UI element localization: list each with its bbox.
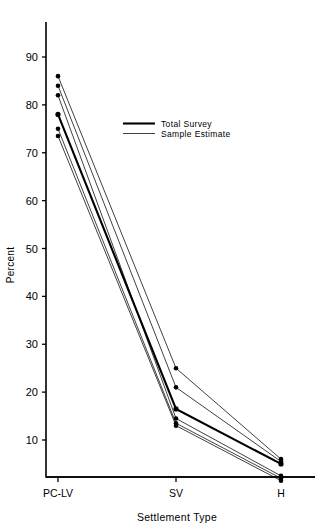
legend-label-total-survey: Total Survey: [161, 119, 212, 129]
data-point: [56, 93, 61, 98]
series-line: [58, 114, 281, 463]
y-tick-label: 90: [26, 51, 38, 63]
y-axis-ticks: 102030405060708090: [26, 51, 46, 446]
chart-canvas: 102030405060708090 PC-LVSVH Total Survey…: [0, 0, 323, 531]
y-axis-title: Percent: [5, 247, 16, 284]
x-axis-title: Settlement Type: [137, 511, 217, 523]
x-tick-label: SV: [169, 487, 183, 499]
data-point: [56, 127, 61, 132]
y-tick-label: 30: [26, 338, 38, 350]
x-tick-label: H: [277, 487, 285, 499]
line-chart: 102030405060708090 PC-LVSVH Total Survey…: [0, 0, 323, 531]
data-point: [56, 83, 61, 88]
data-point: [278, 461, 283, 466]
data-point: [174, 385, 179, 390]
data-point: [56, 134, 61, 139]
data-point: [55, 112, 60, 117]
y-tick-label: 40: [26, 290, 38, 302]
data-point: [174, 366, 179, 371]
data-point: [279, 478, 284, 483]
y-tick-label: 70: [26, 147, 38, 159]
data-point: [174, 416, 179, 421]
data-point: [56, 74, 61, 79]
series-line: [58, 95, 281, 476]
y-tick-label: 10: [26, 434, 38, 446]
data-point: [174, 423, 179, 428]
axis-frame: [46, 22, 315, 477]
x-axis-ticks: PC-LVSVH: [43, 477, 285, 499]
axes: [46, 22, 315, 477]
x-tick-label: PC-LV: [43, 487, 73, 499]
y-tick-label: 60: [26, 195, 38, 207]
data-point: [173, 406, 178, 411]
series-line: [58, 129, 281, 478]
y-tick-label: 20: [26, 386, 38, 398]
y-tick-label: 80: [26, 99, 38, 111]
legend-label-sample-estimate: Sample Estimate: [161, 129, 231, 139]
y-tick-label: 50: [26, 243, 38, 255]
chart-legend: Total Survey Sample Estimate: [123, 119, 231, 139]
series-line: [58, 86, 281, 462]
